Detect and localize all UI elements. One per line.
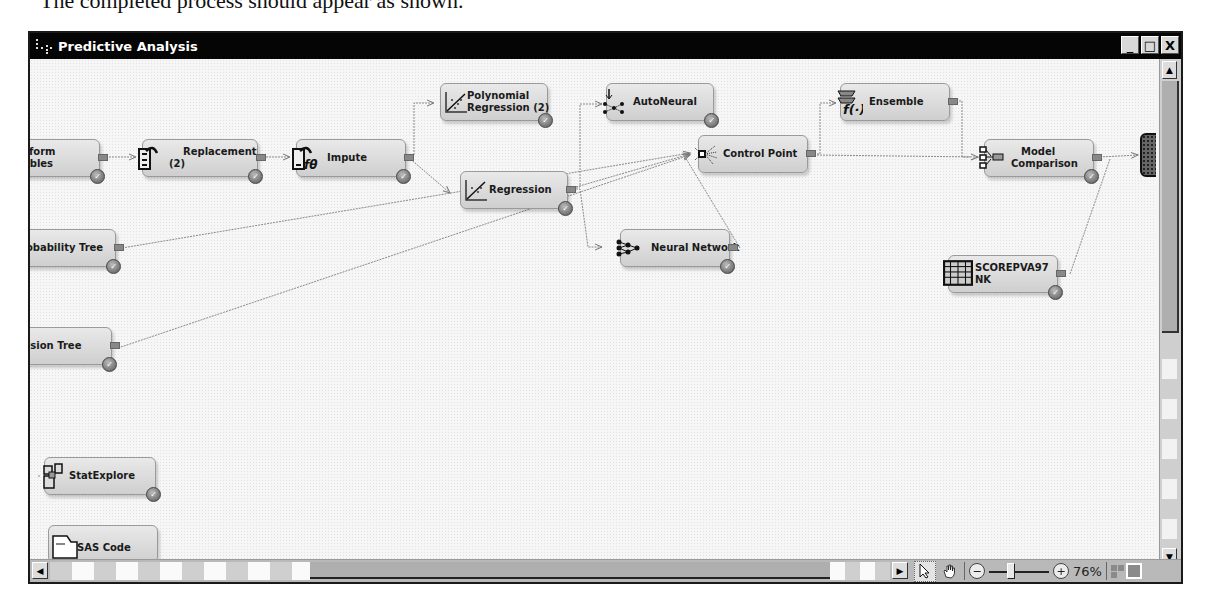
node-replacement[interactable]: Replacement(2) ✓ [142,139,258,177]
select-arrow-icon[interactable] [914,561,936,582]
node-label: SCOREPVA97 [975,262,1049,273]
node-regression[interactable]: Regression ✓ [460,171,568,209]
node-decision-tree[interactable]: cision Tree ✓ [30,327,112,365]
node-label: Model [1021,146,1055,157]
output-port[interactable] [256,154,266,161]
node-probability-tree[interactable]: robability Tree ✓ [30,229,116,267]
node-impute[interactable]: fθ Impute ✓ [296,139,406,177]
node-output-data-partial[interactable] [1140,133,1156,177]
node-ensemble[interactable]: f(·) Ensemble [840,83,950,121]
vertical-scroll-thumb[interactable] [1162,81,1179,333]
horizontal-scroll-track-right[interactable] [830,562,890,580]
status-check-icon: ✓ [558,201,573,216]
horizontal-scroll-track[interactable] [50,562,310,580]
node-control-point[interactable]: Control Point [698,135,808,173]
connection-lines [30,59,1156,568]
statexplore-icon [43,462,71,490]
status-check-icon: ✓ [248,169,263,184]
output-port[interactable] [404,154,414,161]
scroll-left-button[interactable]: ◀ [32,562,48,579]
status-check-icon: ✓ [90,169,105,184]
horizontal-scroll-thumb[interactable] [310,562,830,579]
zoom-slider[interactable] [989,562,1049,580]
node-label: StatExplore [69,470,135,481]
maximize-button[interactable]: □ [1141,36,1159,54]
output-port[interactable] [948,98,958,105]
status-check-icon: ✓ [106,259,121,274]
scroll-up-button[interactable]: ▲ [1162,61,1177,79]
vertical-scroll-track[interactable] [1162,339,1177,539]
node-label: ables [30,158,53,169]
minimize-button[interactable]: _ [1121,36,1139,54]
output-port[interactable] [806,150,816,157]
process-flow-icon [34,36,56,56]
node-label: AutoNeural [633,96,697,107]
node-label: Comparison [1011,158,1078,169]
bottom-toolbar: ◀ ▶ − + 76% [30,559,1181,582]
output-port[interactable] [728,244,738,251]
node-sas-code[interactable]: SAS Code [48,525,158,563]
status-check-icon: ✓ [704,113,719,128]
node-label: robability Tree [30,242,103,253]
predictive-analysis-window: Predictive Analysis _ □ X [28,31,1183,584]
impute-icon: fθ [291,144,319,172]
node-model-comparison[interactable]: ModelComparison ✓ [984,139,1094,177]
node-label: Neural Network [651,242,739,253]
node-label: SAS Code [77,542,131,553]
close-button[interactable]: X [1161,36,1179,54]
node-polynomial-regression[interactable]: PolynomialRegression (2) ✓ [440,83,548,121]
node-transform-variables[interactable]: sformables ✓ [30,139,100,177]
control-point-icon [693,140,721,168]
zoom-out-button[interactable]: − [969,563,985,579]
output-port[interactable] [110,342,120,349]
node-label: sform [30,146,56,157]
ensemble-icon: f(·) [835,88,863,116]
output-port[interactable] [98,154,108,161]
node-label: Control Point [723,148,797,159]
zoom-in-button[interactable]: + [1053,563,1069,579]
toolbar-separator [1106,562,1107,580]
data-table-icon [943,258,973,288]
node-label: Ensemble [869,96,923,107]
output-port[interactable] [566,186,576,193]
node-neural-network[interactable]: Neural Network ✓ [620,229,730,267]
node-label: NK [975,274,991,285]
node-label: Polynomial [467,90,529,101]
svg-text:f(·): f(·) [843,102,863,116]
status-check-icon: ✓ [1084,169,1099,184]
zoom-slider-knob[interactable] [1007,563,1015,579]
title-bar[interactable]: Predictive Analysis _ □ X [30,33,1181,59]
node-label: Regression [489,184,552,195]
replacement-icon [137,144,165,172]
output-port[interactable] [114,244,124,251]
node-label: Replacement [183,146,257,157]
node-score-data[interactable]: SCOREPVA97NK ✓ [948,255,1058,293]
toolbar-separator [964,562,965,580]
node-statexplore[interactable]: StatExplore ✓ [44,457,156,495]
neural-network-icon [615,234,643,262]
zoom-level: 76% [1073,564,1102,579]
status-check-icon: ✓ [720,259,735,274]
overview-toggle-icon[interactable] [1111,563,1142,579]
scroll-right-button[interactable]: ▶ [892,562,908,579]
node-label: Regression (2) [467,102,549,113]
node-label: Impute [327,152,367,163]
sas-code-icon [51,532,79,560]
model-comparison-icon [979,144,1007,172]
window-title: Predictive Analysis [58,39,198,54]
status-check-icon: ✓ [102,357,117,372]
regression-icon [463,176,491,204]
status-check-icon: ✓ [396,169,411,184]
pan-hand-icon[interactable] [940,562,960,581]
output-port[interactable] [1092,154,1102,161]
horizontal-scrollbar[interactable]: ◀ ▶ [30,561,910,581]
node-label: (2) [169,158,185,169]
node-label: cision Tree [30,340,81,351]
diagram-canvas[interactable]: sformables ✓ Replacement(2) ✓ fθ Impute [30,59,1156,568]
status-check-icon: ✓ [146,487,161,502]
output-port[interactable] [1056,270,1066,277]
vertical-scrollbar[interactable]: ▲ ▼ [1159,59,1181,568]
status-check-icon: ✓ [538,113,553,128]
instruction-caption: The completed process should appear as s… [40,0,463,14]
node-autoneural[interactable]: AutoNeural ✓ [606,83,714,121]
